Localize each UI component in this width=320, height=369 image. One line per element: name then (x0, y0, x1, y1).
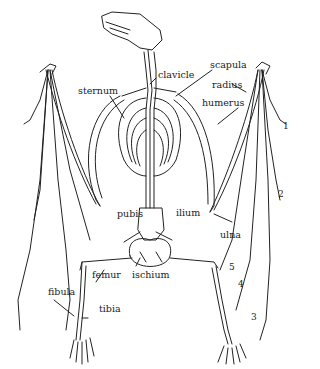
label-pubis: pubis (117, 209, 143, 219)
digit-number-5: 5 (229, 263, 235, 272)
digit-number-4: 4 (238, 280, 244, 289)
label-fibula: fibula (48, 287, 75, 297)
label-radius: radius (212, 80, 242, 90)
label-scapula: scapula (210, 60, 247, 70)
label-femur: femur (92, 270, 121, 280)
label-ilium: ilium (176, 208, 200, 218)
digit-number-3: 3 (251, 313, 257, 322)
skull (102, 12, 162, 50)
digit-number-1: 1 (283, 122, 289, 131)
label-ischium: ischium (132, 270, 170, 280)
digit-number-2: 2 (278, 190, 284, 199)
label-tibia: tibia (99, 304, 121, 314)
label-ulna: ulna (220, 230, 241, 240)
label-clavicle: clavicle (158, 70, 194, 80)
label-humerus: humerus (202, 98, 244, 108)
label-sternum: sternum (78, 86, 118, 96)
